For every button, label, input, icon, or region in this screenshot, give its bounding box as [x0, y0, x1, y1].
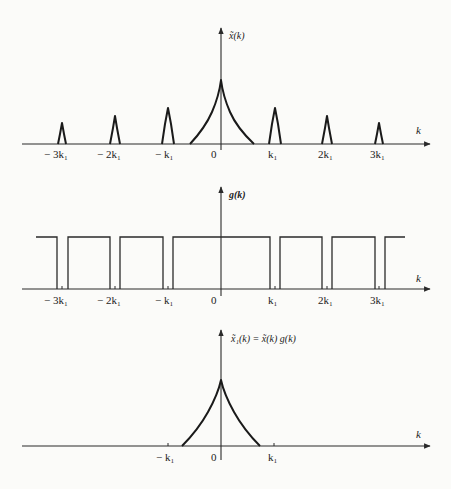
svg-text:0: 0: [211, 294, 217, 306]
peak-minus-2k1: [110, 116, 120, 144]
svg-text:3k₁: 3k₁: [370, 148, 385, 160]
tick-labels: − k₁ 0 k₁: [156, 451, 278, 463]
svg-text:0: 0: [211, 451, 217, 463]
svg-text:2k₁: 2k₁: [318, 294, 333, 306]
svg-text:− 3k₁: − 3k₁: [44, 148, 68, 160]
svg-text:− 2k₁: − 2k₁: [97, 148, 121, 160]
peak-k1: [269, 108, 281, 144]
svg-text:k₁: k₁: [268, 294, 278, 306]
axis-label-k: k: [416, 428, 422, 440]
peak-minus-3k1: [58, 123, 66, 144]
peak-2k1: [322, 116, 332, 144]
tick-labels: − 3k₁ − 2k₁ − k₁ 0 k₁ 2k₁ 3k₁: [44, 148, 385, 160]
panel-top: x̃(k) k − 3k₁ − 2k₁ − k₁ 0 k₁ 2k₁ 3k₁: [22, 28, 430, 160]
svg-text:k₁: k₁: [268, 451, 278, 463]
svg-text:3k₁: 3k₁: [370, 294, 385, 306]
panel-bottom: x̃₁(k) = x̃(k) g(k) k − k₁ 0 k₁: [22, 330, 430, 463]
svg-text:− k₁: − k₁: [155, 294, 173, 306]
peak-minus-k1: [162, 108, 174, 144]
peak-3k1: [375, 123, 383, 144]
svg-text:2k₁: 2k₁: [318, 148, 333, 160]
svg-text:− k₁: − k₁: [156, 451, 174, 463]
tick-labels: − 3k₁ − 2k₁ − k₁ 0 k₁ 2k₁ 3k₁: [44, 294, 385, 306]
figure: x̃(k) k − 3k₁ − 2k₁ − k₁ 0 k₁ 2k₁ 3k₁ g(…: [0, 0, 451, 489]
svg-text:0: 0: [211, 148, 217, 160]
central-peak: [190, 80, 254, 144]
svg-text:− 2k₁: − 2k₁: [97, 294, 121, 306]
svg-text:− k₁: − k₁: [155, 148, 173, 160]
panel-middle: g(k) k − 3k₁ − 2k₁ − k₁ 0 k₁ 2k₁ 3k₁: [22, 187, 430, 306]
svg-text:k₁: k₁: [268, 148, 278, 160]
axis-label-k: k: [416, 272, 422, 284]
svg-text:− 3k₁: − 3k₁: [44, 294, 68, 306]
function-label: x̃(k): [228, 30, 245, 42]
function-label: x̃₁(k) = x̃(k) g(k): [230, 333, 297, 345]
axis-label-k: k: [416, 124, 422, 136]
function-label: g(k): [228, 189, 246, 201]
